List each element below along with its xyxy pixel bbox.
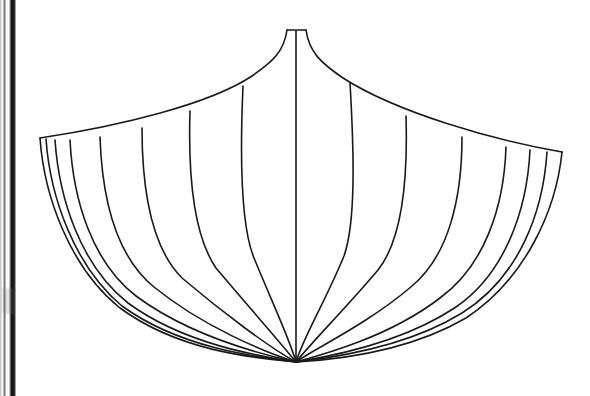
fan-shell-drawing: [0, 0, 590, 396]
page-binding-shadow: [9, 0, 16, 396]
drawing-background: [0, 0, 590, 396]
scanned-page: [0, 0, 590, 396]
page-edge-thin-line: [3, 0, 6, 396]
scan-smudge: [2, 288, 14, 314]
page-edge-outer: [0, 0, 2, 396]
